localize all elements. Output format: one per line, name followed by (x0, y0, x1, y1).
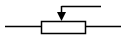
wiper-arrow-icon (57, 6, 101, 21)
potentiometer-symbol (0, 0, 127, 49)
resistor-body (42, 22, 86, 34)
